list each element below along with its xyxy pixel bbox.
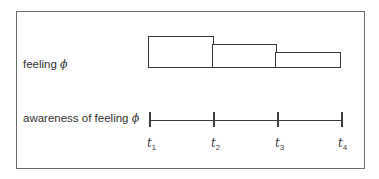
time-label-t4: t4 xyxy=(338,136,347,152)
feeling-bar-t1-t2 xyxy=(148,36,214,68)
awareness-row-label: awareness of feeling ϕ xyxy=(23,112,139,125)
tick-t4 xyxy=(341,112,343,127)
awareness-timeline xyxy=(149,120,343,122)
feeling-row-label: feeling ϕ xyxy=(23,58,68,71)
diagram-frame xyxy=(16,11,365,169)
tick-t3 xyxy=(277,112,279,127)
time-label-t3: t3 xyxy=(275,136,284,152)
awareness-label-text: awareness of feeling xyxy=(23,112,128,124)
feeling-bar-t2-t3 xyxy=(212,44,277,68)
tick-t2 xyxy=(213,112,215,127)
feeling-bar-t3-t4 xyxy=(275,52,341,68)
feeling-label-text: feeling xyxy=(23,58,57,70)
time-label-t2: t2 xyxy=(211,136,220,152)
tick-t1 xyxy=(149,112,151,127)
time-label-t1: t1 xyxy=(147,136,156,152)
phi-symbol: ϕ xyxy=(60,58,68,71)
phi-symbol: ϕ xyxy=(132,112,140,125)
